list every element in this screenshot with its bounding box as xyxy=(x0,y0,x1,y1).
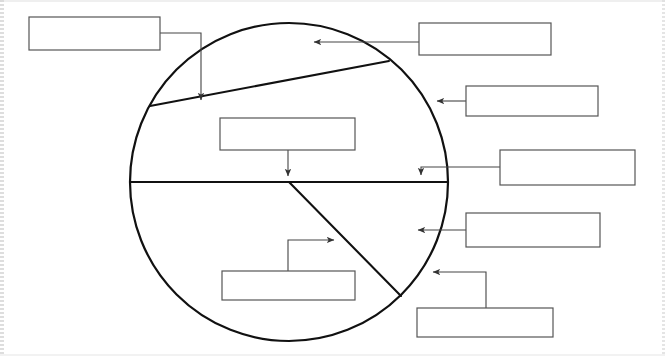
answer-box-right-middle[interactable] xyxy=(500,150,635,185)
answer-box-right-upper-outline[interactable] xyxy=(466,86,598,116)
leader-bottom-right xyxy=(433,272,486,308)
answer-box-top-left[interactable] xyxy=(29,17,160,50)
answer-boxes xyxy=(29,17,635,337)
answer-box-bottom-right-outline[interactable] xyxy=(417,308,553,337)
leader-lines xyxy=(160,33,500,308)
answer-box-upper-interior[interactable] xyxy=(220,118,355,150)
upper-chord xyxy=(150,61,389,106)
answer-box-top-right-outline[interactable] xyxy=(419,23,551,55)
diagram-canvas xyxy=(0,0,665,356)
answer-box-lower-interior[interactable] xyxy=(222,271,355,300)
leader-lower-interior xyxy=(288,240,334,271)
leader-right-middle xyxy=(421,167,500,175)
answer-box-bottom-right[interactable] xyxy=(417,308,553,337)
answer-box-top-right[interactable] xyxy=(419,23,551,55)
worksheet-page xyxy=(0,0,665,356)
answer-box-top-left-outline[interactable] xyxy=(29,17,160,50)
answer-box-lower-interior-outline[interactable] xyxy=(222,271,355,300)
answer-box-upper-interior-outline[interactable] xyxy=(220,118,355,150)
answer-box-right-middle-outline[interactable] xyxy=(500,150,635,185)
answer-box-right-upper[interactable] xyxy=(466,86,598,116)
divider-lines xyxy=(130,61,448,296)
answer-box-right-lower[interactable] xyxy=(466,213,600,247)
answer-box-right-lower-outline[interactable] xyxy=(466,213,600,247)
